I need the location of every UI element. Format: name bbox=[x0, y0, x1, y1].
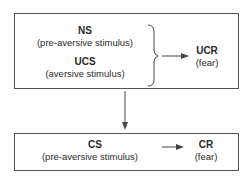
cr-description: (fear) bbox=[186, 151, 226, 162]
cs-description: (pre-aversive stimulus) bbox=[30, 151, 150, 162]
cs-label: CS bbox=[45, 139, 145, 150]
cr-label: CR bbox=[186, 139, 226, 150]
ns-label: NS bbox=[35, 25, 135, 36]
ucs-description: (aversive stimulus) bbox=[25, 68, 145, 79]
arrowhead-down-icon bbox=[122, 122, 128, 130]
ucr-description: (fear) bbox=[187, 57, 227, 68]
ucs-label: UCS bbox=[35, 56, 135, 67]
ns-description: (pre-aversive stimulus) bbox=[25, 37, 145, 48]
brace-icon bbox=[148, 25, 158, 86]
arrowhead-icon bbox=[176, 144, 184, 150]
ucr-label: UCR bbox=[187, 45, 227, 56]
